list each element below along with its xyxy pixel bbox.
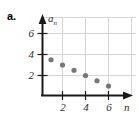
x-axis-label: n (124, 101, 130, 113)
x-tick-label-2: 2 (56, 101, 70, 113)
data-point (60, 62, 65, 67)
x-tick-label-4: 4 (79, 101, 93, 113)
x-axis (41, 92, 133, 100)
data-point (94, 78, 99, 83)
data-point (83, 73, 88, 78)
data-point (48, 57, 53, 62)
y-tick-label-6: 6 (20, 27, 34, 39)
data-point (71, 68, 76, 73)
y-tick-label-4: 4 (20, 48, 34, 60)
chart-screenshot: a. (0, 0, 139, 122)
scatter-plot: 6 4 2 2 4 6 an n (0, 0, 139, 122)
data-point (106, 83, 111, 88)
y-tick-label-2: 2 (20, 69, 34, 81)
x-tick-label-6: 6 (102, 101, 116, 113)
y-axis-label-subscript: n (54, 19, 58, 27)
data-point-series (48, 57, 111, 88)
y-axis-label: an (48, 12, 57, 27)
